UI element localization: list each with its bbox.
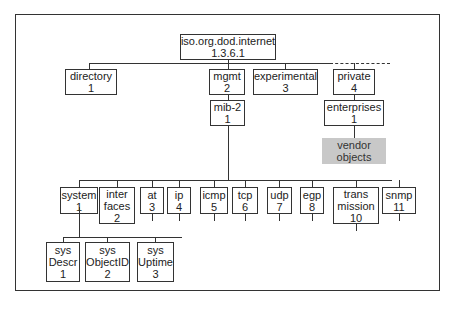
node-experimental: experimental3	[253, 69, 318, 95]
node-sysobjectid: sysObjectID2	[85, 242, 130, 282]
node-directory: directory1	[65, 69, 117, 95]
node-vendor-objects: vendorobjects	[322, 138, 386, 164]
node-private: private4	[333, 69, 375, 95]
node-icmp: icmp5	[200, 187, 228, 214]
node-udp: udp7	[267, 187, 292, 214]
node-ip: ip4	[167, 187, 191, 214]
node-transmission: transmission10	[333, 187, 379, 224]
node-mgmt: mgmt2	[209, 69, 245, 95]
node-tcp: tcp6	[232, 187, 258, 214]
node-sysuptime: sysUptime3	[137, 242, 174, 282]
node-internet: iso.org.dod.internet 1.3.6.1	[180, 34, 276, 60]
node-sysdescr: sysDescr1	[46, 242, 80, 282]
node-egp: egp8	[300, 187, 324, 214]
node-enterprises: enterprises1	[324, 100, 384, 126]
node-interfaces: interfaces2	[99, 187, 135, 224]
node-at: at3	[140, 187, 164, 214]
more-branches-dashed-line	[330, 63, 390, 65]
node-label: iso.org.dod.internet	[181, 35, 275, 47]
node-oid: 1.3.6.1	[211, 47, 245, 59]
node-snmp: snmp11	[382, 187, 416, 214]
node-mib-2: mib-21	[210, 100, 245, 126]
